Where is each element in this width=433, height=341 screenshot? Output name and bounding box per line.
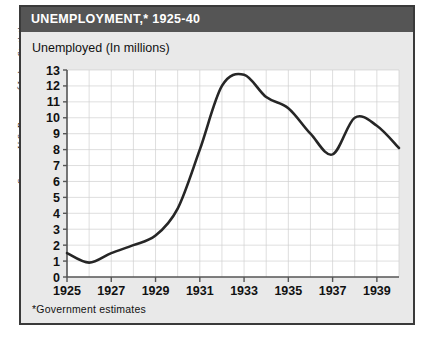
y-tick-label: 4 [53,207,60,221]
y-tick-label: 7 [53,159,60,173]
line-chart-svg: 012345678910111213 192519271929193119331… [29,60,409,295]
x-tick-label: 1927 [97,284,125,295]
chart-title: UNEMPLOYMENT,* 1925-40 [31,12,200,26]
y-axis-tick-labels: 012345678910111213 [46,64,60,285]
y-tick-label: 11 [47,95,60,109]
y-tick-label: 0 [53,271,60,285]
chart-title-bar: UNEMPLOYMENT,* 1925-40 [21,7,413,32]
x-tick-label: 1935 [274,284,302,295]
plot-area: 012345678910111213 192519271929193119331… [29,60,409,295]
chart-footnote: *Government estimates [32,303,146,315]
y-tick-label: 2 [53,239,60,253]
y-tick-label: 8 [53,143,60,157]
y-tick-label: 3 [53,223,60,237]
y-tick-label: 6 [53,175,60,189]
chart-panel: UNEMPLOYMENT,* 1925-40 Unemployed (In mi… [19,5,415,325]
x-tick-label: 1925 [53,284,81,295]
x-axis-tick-labels: 19251927192919311933193519371939 [53,284,391,295]
x-tick-label: 1937 [319,284,347,295]
y-tick-label: 9 [53,127,60,141]
y-tick-label: 13 [46,64,60,78]
y-tick-label: 10 [46,111,60,125]
x-tick-label: 1933 [230,284,258,295]
y-tick-label: 5 [53,191,60,205]
chart-subtitle: Unemployed (In millions) [32,41,170,55]
y-tick-label: 12 [46,79,60,93]
x-tick-label: 1929 [142,284,170,295]
plot-background [67,70,399,277]
y-tick-label: 1 [53,255,60,269]
x-tick-label: 1931 [186,284,214,295]
x-tick-label: 1939 [363,284,391,295]
chart-screenshot: Source: U.S. Bureau of Labor Statistics … [0,0,433,341]
